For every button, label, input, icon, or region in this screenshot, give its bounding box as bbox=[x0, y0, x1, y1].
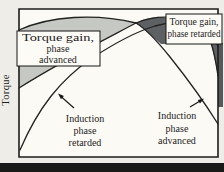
torque-gain-advanced-label-line3: advanced bbox=[39, 54, 77, 65]
figure-canvas: Torque gain, phase advanced Torque gain,… bbox=[0, 0, 224, 172]
torque-gain-retarded-label-line2: phase retarded bbox=[168, 28, 221, 39]
induction-retarded-note-line3: retarded bbox=[69, 137, 102, 148]
induction-advanced-note-line2: phase bbox=[166, 123, 189, 134]
torque-valve-timing-figure: Torque gain, phase advanced Torque gain,… bbox=[0, 0, 224, 172]
torque-gain-advanced-label-line2: phase bbox=[47, 43, 70, 54]
induction-advanced-note-line3: advanced bbox=[158, 135, 196, 146]
torque-gain-retarded-label-line1: Torque gain, bbox=[170, 16, 219, 27]
induction-retarded-note-line1: Induction bbox=[66, 113, 104, 124]
bottom-rule bbox=[0, 163, 224, 172]
torque-gain-advanced-label-line1: Torque gain, bbox=[22, 32, 94, 43]
induction-retarded-note-line2: phase bbox=[74, 125, 97, 136]
induction-advanced-note-line1: Induction bbox=[158, 110, 196, 121]
y-axis-label: Torque bbox=[0, 74, 11, 105]
